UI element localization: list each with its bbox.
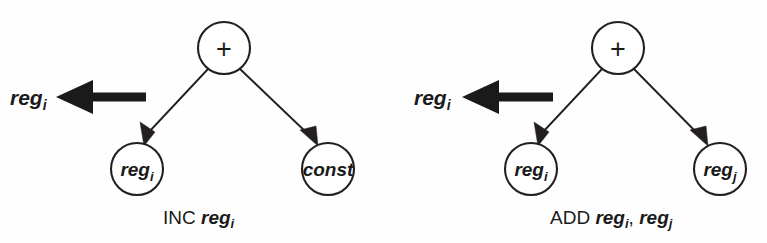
edge-root-to-right-child <box>634 69 708 146</box>
edge-root-to-left-child <box>140 69 208 146</box>
inc-root-node: + <box>198 22 250 74</box>
add-root-label: + <box>610 34 626 64</box>
inc-root-label: + <box>216 34 232 64</box>
inc-result-arrow <box>56 80 146 114</box>
inc-result-label: regi <box>10 86 48 113</box>
inc-right-child-node: const <box>302 143 354 195</box>
add-result-arrow <box>462 80 553 114</box>
inc-left-child-node: regi <box>111 143 163 195</box>
add-left-child-node: regi <box>505 143 557 195</box>
inc-right-child-label: const <box>303 159 354 180</box>
edge-root-to-left-child <box>534 69 602 146</box>
instruction-pattern-figure: + regi const <box>0 0 767 243</box>
inc-tree-group: + regi const <box>10 22 354 231</box>
add-caption: ADD regi, regj <box>550 207 673 231</box>
add-root-node: + <box>592 22 644 74</box>
inc-caption: INC regi <box>163 207 235 231</box>
add-result-label: regi <box>414 86 452 113</box>
add-right-child-node: regj <box>694 143 746 195</box>
diagram-canvas: + regi const <box>0 0 767 243</box>
add-tree-group: + regi regj <box>414 22 746 231</box>
edge-root-to-right-child <box>240 69 318 146</box>
